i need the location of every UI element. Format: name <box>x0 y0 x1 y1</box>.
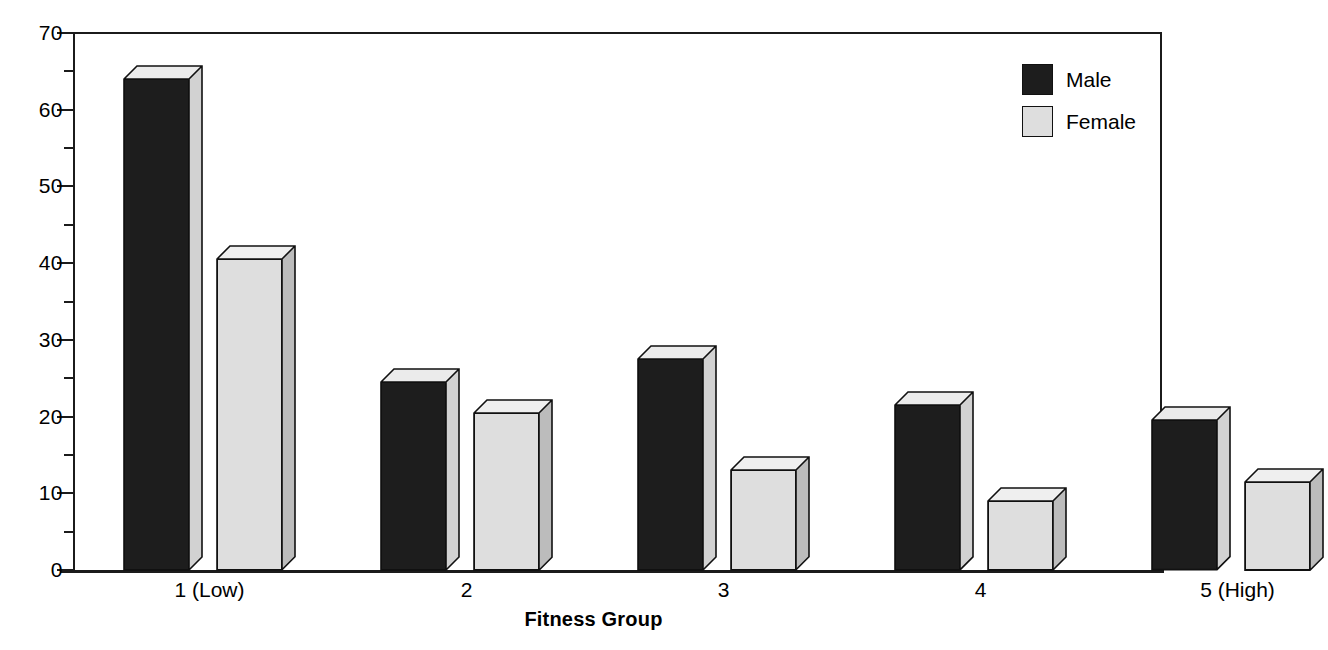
bar-male <box>895 392 960 570</box>
chart-legend: MaleFemale <box>1022 62 1136 146</box>
legend-swatch-icon <box>1022 106 1053 137</box>
bar-outline <box>895 392 975 572</box>
legend-swatch-icon <box>1022 64 1053 95</box>
y-axis-label: 0 <box>51 559 63 580</box>
bar-male <box>381 369 446 570</box>
y-axis-tick-minor <box>64 224 74 226</box>
bar-male <box>638 346 703 570</box>
y-axis-tick-minor <box>64 454 74 456</box>
x-axis-label: 1 (Low) <box>84 578 335 602</box>
y-axis-tick-minor <box>64 377 74 379</box>
x-axis-title: Fitness Group <box>0 608 1187 631</box>
y-axis-tick-minor <box>64 147 74 149</box>
x-axis-label: 2 <box>341 578 592 602</box>
y-axis-label: 30 <box>39 329 63 350</box>
legend-label: Male <box>1066 69 1112 90</box>
bar-female <box>217 246 282 570</box>
y-axis-tick-minor <box>64 301 74 303</box>
y-axis-tick-minor <box>64 531 74 533</box>
bar-outline <box>731 457 811 572</box>
bar-outline <box>124 66 204 572</box>
bar-female <box>474 400 539 570</box>
legend-item: Female <box>1022 104 1136 138</box>
bar-outline <box>988 488 1068 572</box>
bar-outline <box>474 400 554 572</box>
y-axis-label: 60 <box>39 99 63 120</box>
bar-female <box>988 488 1053 570</box>
y-axis-label: 20 <box>39 406 63 427</box>
y-axis-label: 40 <box>39 252 63 273</box>
bar-male <box>1152 407 1217 570</box>
y-axis-label: 10 <box>39 482 63 503</box>
x-axis-label: 3 <box>598 578 849 602</box>
bar-outline <box>1152 407 1232 572</box>
bar-outline <box>638 346 718 572</box>
bar-outline <box>381 369 461 572</box>
y-axis-tick-minor <box>64 70 74 72</box>
bar-male <box>124 66 189 570</box>
bar-female <box>1245 469 1310 570</box>
bar-outline <box>1245 469 1325 572</box>
y-axis-label: 70 <box>39 22 63 43</box>
legend-label: Female <box>1066 111 1136 132</box>
legend-item: Male <box>1022 62 1136 96</box>
bar-outline <box>217 246 297 572</box>
bar-female <box>731 457 796 570</box>
x-axis-label: 4 <box>855 578 1106 602</box>
x-axis-label: 5 (High) <box>1112 578 1328 602</box>
y-axis-label: 50 <box>39 175 63 196</box>
